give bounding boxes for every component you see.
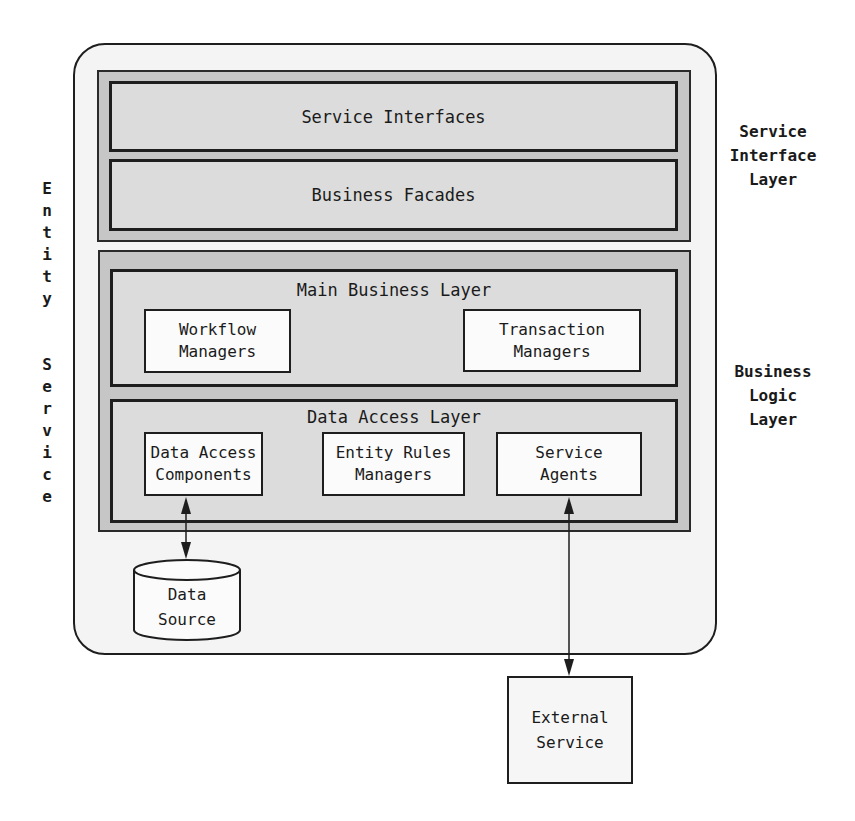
label-letter: r: [37, 399, 57, 418]
label-letter: e: [37, 487, 57, 506]
label-letter: e: [37, 377, 57, 396]
label-letter: v: [37, 421, 57, 440]
external-service-box: External Service: [507, 676, 633, 784]
workflow-managers-label: Workflow Managers: [179, 319, 256, 363]
external-service-label: External Service: [531, 705, 608, 755]
service-agents-label: Service Agents: [535, 442, 602, 486]
label-letter: i: [37, 443, 57, 462]
entity-rules-managers-label: Entity Rules Managers: [336, 442, 452, 486]
main-business-layer-title: Main Business Layer: [113, 280, 675, 300]
business-facades-label: Business Facades: [312, 185, 476, 205]
data-access-layer-title: Data Access Layer: [113, 407, 675, 427]
data-access-components-label: Data Access Components: [151, 442, 257, 486]
label-letter: i: [37, 245, 57, 264]
workflow-managers-box: Workflow Managers: [144, 309, 291, 373]
label-letter: E: [37, 179, 57, 198]
label-letter: t: [37, 223, 57, 242]
service-interfaces-box: Service Interfaces: [109, 81, 678, 152]
label-letter: n: [37, 201, 57, 220]
label-letter: y: [37, 289, 57, 308]
service-agents-box: Service Agents: [496, 432, 642, 496]
label-letter: c: [37, 465, 57, 484]
label-letter: S: [37, 355, 57, 374]
transaction-managers-label: Transaction Managers: [499, 319, 605, 363]
transaction-managers-box: Transaction Managers: [463, 309, 641, 372]
data-source-label: Data Source: [134, 582, 240, 632]
entity-rules-managers-box: Entity Rules Managers: [322, 432, 465, 496]
service-interface-layer-label: Service Interface Layer: [718, 120, 828, 192]
business-logic-layer-label: Business Logic Layer: [718, 360, 828, 432]
business-facades-box: Business Facades: [109, 159, 678, 231]
service-interfaces-label: Service Interfaces: [301, 107, 485, 127]
data-access-components-box: Data Access Components: [144, 432, 263, 496]
label-letter: t: [37, 267, 57, 286]
